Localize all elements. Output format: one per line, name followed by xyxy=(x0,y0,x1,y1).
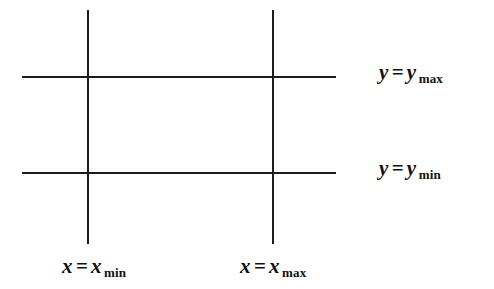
label-y-min-subscript: min xyxy=(419,167,441,182)
label-y-max-subscript: max xyxy=(419,71,443,86)
label-y-max: y=ymax xyxy=(379,62,441,83)
label-y-max-value-variable: y xyxy=(407,60,417,84)
label-y-min-value-variable: y xyxy=(407,156,417,180)
label-x-max-equals: = xyxy=(251,254,269,278)
label-x-min-variable: x xyxy=(62,254,73,278)
label-x-min-equals: = xyxy=(73,254,91,278)
label-y-max-equals: = xyxy=(389,60,407,84)
label-x-max-subscript: max xyxy=(282,265,306,280)
label-x-min-subscript: min xyxy=(104,265,126,280)
bounding-box-diagram: y=ymax y=ymin x=xmin x=xmax xyxy=(0,0,494,289)
label-x-max-variable: x xyxy=(240,254,251,278)
label-x-min: x=xmin xyxy=(62,256,124,277)
label-x-min-value-variable: x xyxy=(91,254,102,278)
label-y-min-variable: y xyxy=(379,156,389,180)
horizontal-line-y-min xyxy=(22,172,336,174)
label-x-max-value-variable: x xyxy=(269,254,280,278)
label-x-max: x=xmax xyxy=(240,256,304,277)
label-y-max-variable: y xyxy=(379,60,389,84)
label-y-min-equals: = xyxy=(389,156,407,180)
horizontal-line-y-max xyxy=(22,76,336,78)
label-y-min: y=ymin xyxy=(379,158,439,179)
vertical-line-x-max xyxy=(272,10,274,244)
vertical-line-x-min xyxy=(87,10,89,244)
